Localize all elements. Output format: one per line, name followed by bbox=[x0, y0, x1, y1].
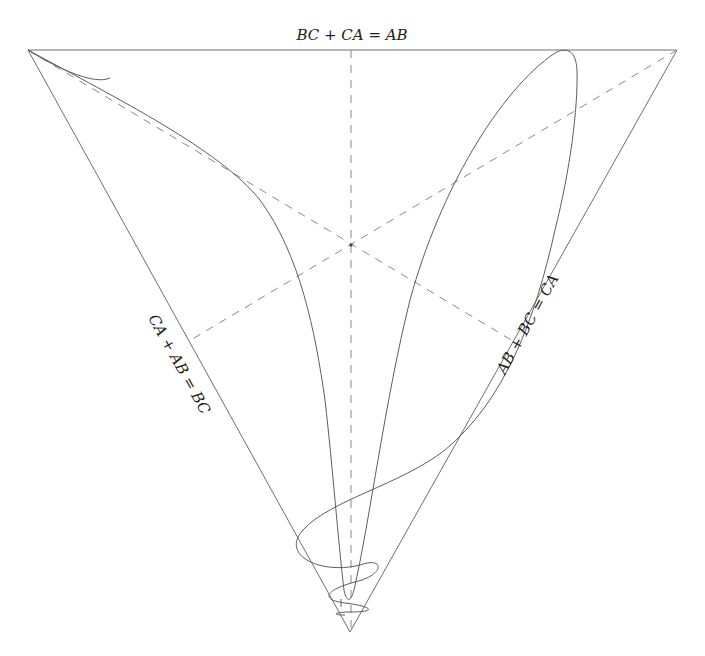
median-from-top-left bbox=[28, 50, 513, 341]
label-top-edge: BC + CA = AB bbox=[295, 26, 407, 44]
centroid-point bbox=[349, 243, 352, 246]
triangle-diagram: BC + CA = AB CA + AB = BC AB + BC = CA bbox=[0, 0, 705, 656]
edge-left bbox=[28, 50, 350, 632]
label-right-edge: AB + BC = CA bbox=[492, 271, 563, 379]
median-from-top-right bbox=[189, 50, 677, 341]
orbit-curve bbox=[28, 50, 577, 615]
label-left-edge: CA + AB = BC bbox=[145, 311, 215, 417]
